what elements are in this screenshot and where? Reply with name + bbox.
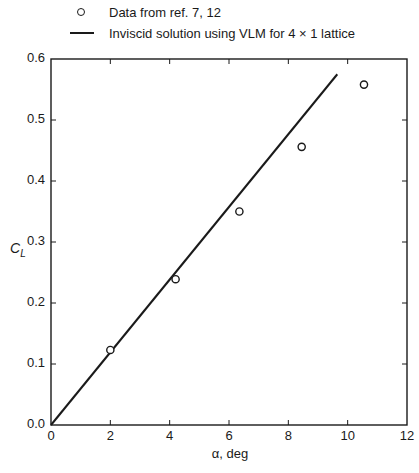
data-point-marker <box>107 346 114 353</box>
x-tick-label: 4 <box>155 428 185 443</box>
legend-label-data: Data from ref. 7, 12 <box>109 5 221 20</box>
axis-ticks <box>51 59 407 425</box>
legend-label-inviscid: Inviscid solution using VLM for 4 × 1 la… <box>109 26 355 41</box>
x-tick-label: 2 <box>95 428 125 443</box>
data-point-marker <box>298 143 305 150</box>
legend-item-inviscid: Inviscid solution using VLM for 4 × 1 la… <box>66 24 355 42</box>
x-tick-label: 12 <box>392 428 419 443</box>
y-tick-label: 0.1 <box>9 355 45 370</box>
legend-item-data: Data from ref. 7, 12 <box>66 3 221 21</box>
y-tick-label: 0.4 <box>9 172 45 187</box>
x-tick-label: 10 <box>333 428 363 443</box>
plot-border <box>51 59 407 425</box>
inviscid-solution-line <box>51 74 337 425</box>
y-axis-label-main: C <box>10 240 20 256</box>
y-tick-label: 0.5 <box>9 111 45 126</box>
x-tick-label: 8 <box>273 428 303 443</box>
data-point-marker <box>360 81 367 88</box>
solid-line-icon <box>66 24 96 42</box>
x-tick-label: 0 <box>36 428 66 443</box>
x-axis-label: α, deg <box>200 446 260 461</box>
open-circle-icon <box>66 3 96 21</box>
x-tick-label: 6 <box>214 428 244 443</box>
legend: Data from ref. 7, 12 Inviscid solution u… <box>0 0 414 48</box>
y-tick-label: 0.6 <box>9 50 45 65</box>
y-tick-label: 0.2 <box>9 294 45 309</box>
data-point-marker <box>236 208 243 215</box>
plot-series <box>51 74 368 425</box>
plot-frame <box>51 59 407 425</box>
data-point-marker <box>172 276 179 283</box>
y-axis-label: CL <box>10 240 26 259</box>
y-axis-label-subscript: L <box>20 248 26 259</box>
